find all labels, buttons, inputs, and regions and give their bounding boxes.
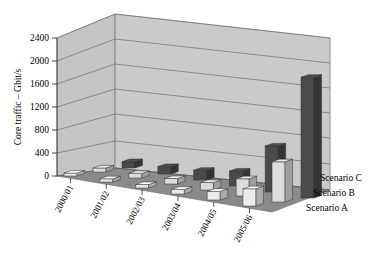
x-tick-label: 2000/01	[53, 183, 76, 214]
y-tick-label: 2000	[30, 56, 49, 66]
legend-label-scenario-c: Scenario C	[320, 173, 362, 183]
side-wall-panel	[57, 14, 115, 176]
y-tick-label: 1200	[30, 102, 49, 112]
bar-front-face	[122, 162, 135, 168]
bar	[207, 189, 228, 200]
y-tick-label: 2400	[30, 33, 49, 43]
x-tick-label: 2001/02	[88, 189, 111, 220]
bar-front-face	[100, 179, 113, 182]
bar-front-face	[136, 185, 149, 188]
bar-front-face	[194, 170, 207, 180]
bar-front-face	[64, 173, 77, 176]
bar-side-face	[256, 186, 264, 206]
chart-container: 2400 2000 1600 1200 800 400 0 Core traff…	[0, 0, 387, 262]
bar	[122, 159, 143, 168]
bar-front-face	[93, 168, 106, 172]
bar	[272, 159, 293, 202]
y-tick-label: 400	[35, 148, 50, 158]
legend-label-scenario-b: Scenario B	[313, 188, 355, 198]
bar-front-face	[272, 162, 285, 202]
bar	[301, 75, 322, 198]
back-wall-panel	[115, 14, 330, 190]
bar	[200, 180, 221, 190]
y-axis: 2400 2000 1600 1200 800 400 0 Core traff…	[13, 33, 57, 181]
bar-front-face	[171, 189, 184, 194]
bar-front-face	[165, 179, 178, 184]
y-tick-label: 800	[35, 125, 50, 135]
y-tick-label: 1600	[30, 79, 49, 89]
x-tick-label: 2003/04	[160, 201, 183, 232]
x-tick-label: 2004/05	[196, 207, 219, 238]
x-tick-label: 2002/03	[124, 195, 147, 226]
legend-label-scenario-a: Scenario A	[306, 203, 348, 213]
bar-front-face	[200, 183, 213, 190]
bar	[158, 164, 179, 174]
bar	[194, 168, 215, 180]
bar-front-face	[243, 189, 256, 206]
bar-front-face	[301, 77, 314, 198]
three-d-bar-chart: 2400 2000 1600 1200 800 400 0 Core traff…	[0, 0, 387, 262]
bar-side-face	[285, 159, 293, 202]
y-tick-label: 0	[44, 171, 49, 181]
bar-front-face	[207, 191, 220, 200]
bar-front-face	[158, 167, 171, 174]
x-tick-label: 2005/06	[232, 213, 255, 244]
bar	[243, 186, 264, 206]
bar-front-face	[129, 173, 142, 178]
y-axis-title: Core traffic – Gbit/s	[13, 68, 23, 145]
